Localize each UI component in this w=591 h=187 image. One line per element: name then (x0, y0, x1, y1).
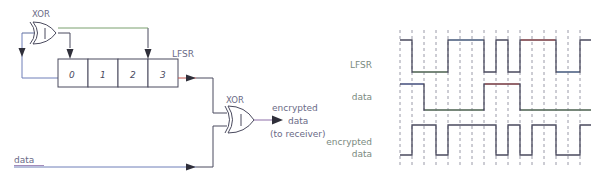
timing-diagram: LFSR data encrypted data (0, 0, 591, 187)
waveform-label-data: data (352, 92, 372, 102)
waveform-lfsr (400, 40, 591, 72)
waveform-encrypted (400, 125, 591, 155)
waveform-label-lfsr: LFSR (350, 60, 372, 70)
waveform-label-encrypted-line2: data (352, 149, 372, 159)
figure-root: XOR 0 1 2 3 LFSR data (0, 0, 591, 187)
waveform-label-encrypted-line1: encrypted (326, 137, 372, 147)
